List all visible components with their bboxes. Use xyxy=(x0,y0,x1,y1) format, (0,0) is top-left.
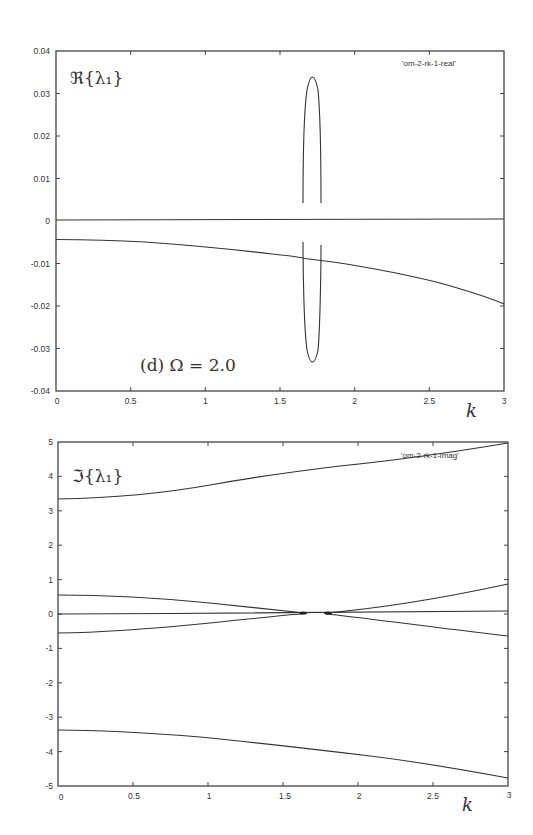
top-ylabel: ℜ{λ₁} xyxy=(70,68,123,88)
svg-text:0.03: 0.03 xyxy=(33,89,50,99)
svg-text:2: 2 xyxy=(48,540,53,550)
bottom-x-tick-labels: 0 0.5 1 1.5 2 2.5 3 xyxy=(59,790,512,802)
svg-text:0: 0 xyxy=(45,216,50,226)
top-plot-frame xyxy=(56,51,504,391)
svg-text:-0.03: -0.03 xyxy=(31,344,51,354)
bottom-curves xyxy=(58,443,508,778)
svg-text:-5: -5 xyxy=(45,781,53,791)
svg-text:0.04: 0.04 xyxy=(33,46,50,56)
svg-text:-0.01: -0.01 xyxy=(31,259,51,269)
top-damped-branch xyxy=(56,240,504,305)
svg-text:2.5: 2.5 xyxy=(427,791,439,801)
bottom-y-tick-labels: 5 4 3 2 1 0 -1 -2 -3 -4 -5 xyxy=(45,437,53,791)
svg-text:-0.02: -0.02 xyxy=(31,301,51,311)
top-y-tick-labels: 0.04 0.03 0.02 0.01 0 -0.01 -0.02 -0.03 … xyxy=(31,46,51,396)
svg-text:-2: -2 xyxy=(45,678,53,688)
top-legend: 'om-2-rk-1-real' xyxy=(402,59,456,68)
top-zero-branch xyxy=(56,219,504,220)
svg-text:3: 3 xyxy=(48,506,53,516)
bottom-xlabel: k xyxy=(462,794,473,815)
svg-text:2.5: 2.5 xyxy=(423,396,435,406)
top-annotation: (d) Ω = 2.0 xyxy=(140,355,236,375)
svg-text:1: 1 xyxy=(207,791,212,801)
bottom-ylabel: ℑ{λ₁} xyxy=(72,466,123,486)
svg-text:1.5: 1.5 xyxy=(279,791,291,801)
bottom-plot: 5 4 3 2 1 0 -1 -2 -3 -4 -5 0 0.5 1 1.5 2… xyxy=(45,437,511,815)
top-curves xyxy=(56,77,504,362)
top-x-tick-labels: 0 0.5 1 1.5 2 2.5 3 xyxy=(55,396,507,406)
svg-text:0: 0 xyxy=(59,792,64,802)
bottom-positive-branch xyxy=(58,584,508,613)
svg-text:-0.04: -0.04 xyxy=(31,386,51,396)
svg-text:-4: -4 xyxy=(45,747,53,757)
svg-text:0: 0 xyxy=(55,396,60,406)
bottom-lower-branch xyxy=(58,730,508,778)
top-x-ticks xyxy=(131,51,430,391)
svg-text:2: 2 xyxy=(357,791,362,801)
top-xlabel: k xyxy=(466,400,477,421)
svg-text:0.5: 0.5 xyxy=(125,396,137,406)
top-instability-bubble-upper xyxy=(303,77,321,203)
bottom-negative-branch xyxy=(58,614,508,637)
svg-text:2: 2 xyxy=(352,396,357,406)
figure: 0.04 0.03 0.02 0.01 0 -0.01 -0.02 -0.03 … xyxy=(0,0,533,835)
svg-text:0.01: 0.01 xyxy=(33,174,50,184)
svg-text:0: 0 xyxy=(48,609,53,619)
svg-text:3: 3 xyxy=(502,396,507,406)
svg-text:3: 3 xyxy=(507,790,512,800)
top-plot: 0.04 0.03 0.02 0.01 0 -0.01 -0.02 -0.03 … xyxy=(31,46,507,421)
bottom-zero-branch xyxy=(58,611,508,614)
crossing-node-left xyxy=(299,612,307,615)
svg-text:0.5: 0.5 xyxy=(128,791,140,801)
svg-text:-3: -3 xyxy=(45,712,53,722)
bottom-legend: 'om-2-rk-1-imag' xyxy=(401,451,459,460)
svg-text:1: 1 xyxy=(48,575,53,585)
svg-text:0.02: 0.02 xyxy=(33,131,50,141)
top-y-ticks xyxy=(56,94,504,349)
svg-text:4: 4 xyxy=(48,471,53,481)
svg-text:1.5: 1.5 xyxy=(274,396,286,406)
crossing-node-right xyxy=(324,612,332,615)
svg-text:-1: -1 xyxy=(45,643,53,653)
svg-text:5: 5 xyxy=(48,437,53,447)
svg-text:1: 1 xyxy=(203,396,208,406)
